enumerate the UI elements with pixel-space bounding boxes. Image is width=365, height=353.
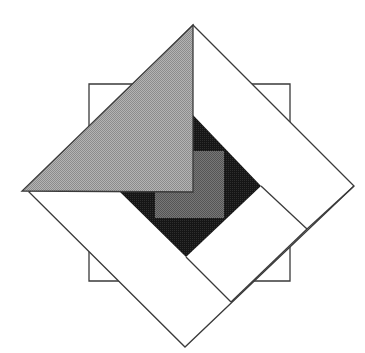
light-gray-triangle [22,25,193,192]
shapes-layer [22,25,354,347]
geometric-diagram [0,0,365,353]
diagram-canvas [0,0,365,353]
